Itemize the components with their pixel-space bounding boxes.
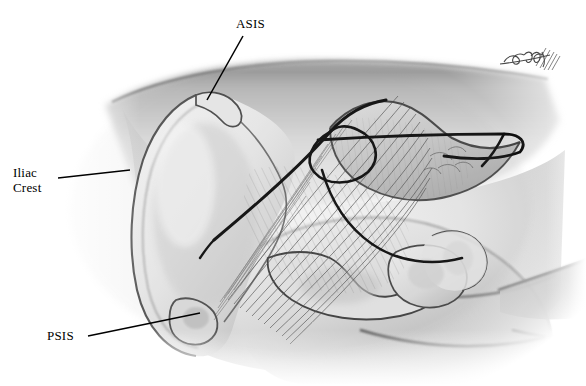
right-fade	[546, 0, 586, 386]
bottom-fade	[0, 330, 586, 386]
pelvis-illustration	[0, 0, 586, 386]
illustration-figure: ASIS Iliac Crest PSIS	[0, 0, 586, 386]
label-psis: PSIS	[47, 329, 74, 344]
label-asis: ASIS	[236, 17, 265, 32]
label-iliac-crest: Iliac Crest	[13, 166, 41, 195]
top-fade	[0, 0, 586, 72]
illustration-body	[0, 0, 586, 386]
